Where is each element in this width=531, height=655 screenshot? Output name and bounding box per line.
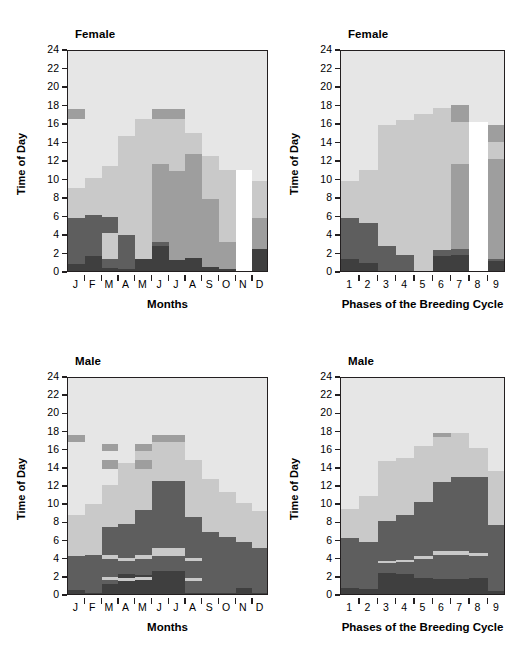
male-phases-xtickmark-2 [377, 598, 378, 604]
column-male-months-J-0 [68, 378, 85, 594]
male-phases-xtickmark-1 [358, 598, 359, 604]
column-female-phases-8-7 [469, 51, 488, 271]
seg-darkest [341, 588, 360, 594]
male-phases-ytick-6: 6 [306, 534, 332, 546]
column-male-months-D-11 [252, 378, 268, 594]
male-months-ytick-14: 14 [33, 461, 59, 473]
column-male-phases-1-0 [341, 378, 360, 594]
female-months-y-axis-label: Time of Day [15, 133, 27, 195]
seg-light-stripe-2 [135, 555, 152, 559]
seg-darkest [433, 256, 452, 271]
seg-dark [433, 482, 452, 594]
male-months-xtickmark-4 [134, 598, 135, 604]
seg-darkest [252, 249, 268, 271]
column-male-phases-3-2 [378, 378, 397, 594]
column-female-phases-2-1 [359, 51, 378, 271]
seg-mid-top-3 [488, 125, 505, 142]
female-phases-xtickmark-5 [432, 275, 433, 281]
seg-mid-top-6 [433, 433, 452, 437]
female-phases-ytick-22: 22 [306, 62, 332, 74]
male-months-xtickmark-1 [84, 598, 85, 604]
male-months-title: Male [75, 355, 101, 367]
seg-dark [451, 477, 470, 594]
male-months-xtickmark-10 [235, 598, 236, 604]
female-months-ytick-8: 8 [33, 191, 59, 203]
female-months-xtickmark-3 [117, 275, 118, 281]
male-phases-ytick-2: 2 [306, 570, 332, 582]
seg-midlight [219, 242, 236, 271]
female-phases-xtickmark-4 [413, 275, 414, 281]
female-months-xtickmark-5 [151, 275, 152, 281]
seg-darkest [359, 589, 378, 594]
column-female-months-F-1 [85, 51, 102, 271]
female-phases-ytick-12: 12 [306, 154, 332, 166]
column-female-months-N-10 [236, 51, 253, 271]
seg-darkest [185, 593, 202, 594]
female-months-xtickmark-11 [251, 275, 252, 281]
seg-light-wedge-0 [433, 238, 452, 250]
column-female-months-M-4 [135, 51, 152, 271]
seg-dark [236, 542, 253, 595]
seg-light [414, 114, 433, 271]
female-months-ytick-2: 2 [33, 247, 59, 259]
seg-light-wedge-0 [102, 233, 119, 259]
seg-darkest [451, 579, 470, 594]
male-phases-ytick-10: 10 [306, 497, 332, 509]
column-male-phases-7-6 [451, 378, 470, 594]
male-months-xtickmark-3 [117, 598, 118, 604]
male-phases-ytick-4: 4 [306, 552, 332, 564]
male-months-ytick-18: 18 [33, 425, 59, 437]
female-months-ytick-16: 16 [33, 117, 59, 129]
female-months-xtickmark-2 [101, 275, 102, 281]
seg-mid-top-6 [135, 460, 152, 469]
female-phases-ytick-14: 14 [306, 136, 332, 148]
male-phases-plot-area [340, 377, 505, 595]
column-female-phases-1-0 [341, 51, 360, 271]
male-phases-ytick-18: 18 [306, 425, 332, 437]
column-male-months-O-9 [219, 378, 236, 594]
seg-darkest [85, 256, 102, 271]
male-months-ytick-4: 4 [33, 552, 59, 564]
seg-light-stripe-5 [185, 578, 202, 581]
female-phases-xtickmark-6 [450, 275, 451, 281]
column-male-phases-5-4 [414, 378, 433, 594]
male-phases-ytick-14: 14 [306, 461, 332, 473]
seg-darkest [219, 269, 236, 271]
female-phases-xtickmark-1 [358, 275, 359, 281]
male-months-xtickmark-8 [201, 598, 202, 604]
seg-light-stripe-1 [118, 558, 135, 562]
male-phases-ytick-12: 12 [306, 479, 332, 491]
seg-light [396, 120, 415, 271]
seg-mid-top-8 [169, 435, 186, 441]
male-phases-xtickmark-3 [395, 598, 396, 604]
column-female-phases-5-4 [414, 51, 433, 271]
seg-darkest [152, 571, 169, 594]
column-male-months-J-6 [169, 378, 186, 594]
seg-dark [202, 532, 219, 595]
seg-darkest [341, 259, 360, 271]
seg-light-stripe-1 [185, 558, 202, 562]
male-months-ytick-20: 20 [33, 406, 59, 418]
female-phases-ytick-4: 4 [306, 228, 332, 240]
female-phases-ytick-2: 2 [306, 247, 332, 259]
female-phases-ytick-8: 8 [306, 191, 332, 203]
female-months-ytick-18: 18 [33, 99, 59, 111]
seg-light-stripe-2 [414, 556, 433, 559]
female-months-x-axis-label: Months [67, 298, 268, 310]
female-phases-ytick-10: 10 [306, 173, 332, 185]
seg-mid-top-8 [152, 435, 169, 441]
seg-mid-top-1 [152, 109, 169, 118]
seg-dark [118, 235, 135, 271]
seg-darkest [102, 268, 119, 271]
seg-mid-top-1 [169, 109, 186, 118]
female-months-title: Female [75, 28, 115, 40]
female-phases-title: Female [348, 28, 388, 40]
male-phases-y-axis-label: Time of Day [288, 458, 300, 520]
seg-darkest [378, 573, 397, 594]
seg-dark [359, 542, 378, 594]
male-months-ytick-10: 10 [33, 497, 59, 509]
column-male-phases-2-1 [359, 378, 378, 594]
female-months-ytick-12: 12 [33, 154, 59, 166]
male-months-ytick-16: 16 [33, 443, 59, 455]
seg-dark [252, 548, 268, 594]
